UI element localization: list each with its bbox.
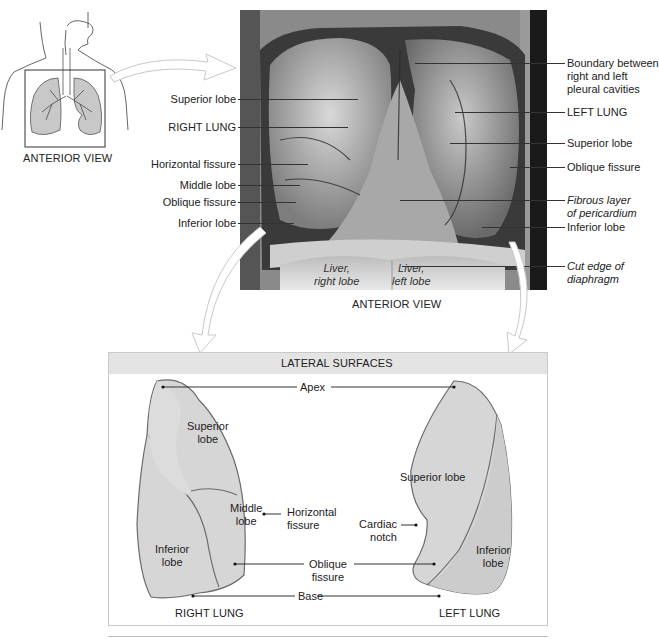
thumbnail-caption: ANTERIOR VIEW [23,152,112,164]
right-lung-caption: RIGHT LUNG [175,607,244,619]
right-inferior-lobe-label: Inferior lobe [155,543,189,569]
panel-header: LATERAL SURFACES [109,353,547,374]
label-oblique-fissure: Oblique fissure [309,558,347,584]
leader-line [482,227,565,228]
left-inferior-lobe-label: Inferior lobe [476,544,510,570]
divider [108,636,548,637]
right-lung-drawing [137,380,245,598]
label-apex: Apex [300,381,325,394]
leader-line [450,143,565,144]
arrow-to-left-lung-icon [495,240,545,360]
label-horizontal-fissure-right: Horizontal fissure [151,158,236,171]
label-oblique-fissure-left: Oblique fissure [567,161,640,174]
liver-right-lobe-label: Liver, right lobe [314,262,359,288]
lateral-surfaces-panel: LATERAL SURFACES [108,352,548,626]
photo-caption: ANTERIOR VIEW [352,298,441,310]
label-cardiac-notch: Cardiac notch [359,518,397,544]
label-cut-edge-diaphragm: Cut edge of diaphragm [567,260,624,286]
leader-line [455,112,565,113]
label-oblique-fissure-right: Oblique fissure [163,196,236,209]
label-middle-lobe: Middle lobe [180,179,236,192]
leader-line [238,99,358,100]
leader-line [238,202,296,203]
left-superior-lobe-label: Superior lobe [400,471,465,484]
label-superior-lobe-left: Superior lobe [567,137,632,150]
label-left-lung: LEFT LUNG [567,106,627,119]
right-superior-lobe-label: Superior lobe [187,420,229,446]
label-fibrous-pericardium: Fibrous layer of pericardium [567,194,637,220]
panel-title: LATERAL SURFACES [281,357,393,369]
lungs-lateral-illustration [109,375,547,625]
right-middle-lobe-label: Middle lobe [230,502,262,528]
arrow-to-right-lung-icon [180,225,270,360]
leader-line [238,164,308,165]
leader-line [415,63,565,64]
label-right-lung: RIGHT LUNG [168,121,236,134]
label-pleural-boundary: Boundary between right and left pleural … [567,57,659,96]
label-inferior-lobe-left: Inferior lobe [567,221,625,234]
leader-line [510,167,565,168]
arrow-to-photo-icon [108,40,243,90]
label-horizontal-fissure: Horizontal fissure [287,506,337,532]
leader-line [238,223,294,224]
leader-line [238,185,300,186]
label-superior-lobe-right: Superior lobe [171,93,236,106]
leader-line [238,127,348,128]
leader-line [400,200,565,201]
label-base: Base [298,590,323,603]
left-lung-caption: LEFT LUNG [439,607,500,619]
